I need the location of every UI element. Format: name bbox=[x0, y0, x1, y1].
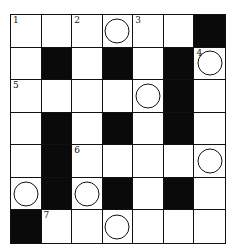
crossword-cell[interactable] bbox=[194, 113, 225, 146]
crossword-cell[interactable]: 7 bbox=[42, 210, 73, 243]
crossword-cell[interactable] bbox=[103, 145, 134, 178]
circle-marker-icon bbox=[13, 181, 38, 206]
black-cell bbox=[42, 145, 73, 178]
crossword-cell[interactable] bbox=[72, 48, 103, 81]
crossword-cell[interactable] bbox=[194, 178, 225, 211]
clue-number: 3 bbox=[135, 15, 141, 26]
crossword-cell[interactable] bbox=[103, 210, 134, 243]
circle-marker-icon bbox=[197, 149, 222, 174]
crossword-cell[interactable] bbox=[194, 80, 225, 113]
crossword-cell[interactable] bbox=[164, 15, 195, 48]
circle-marker-icon bbox=[136, 83, 161, 108]
clue-number: 7 bbox=[44, 210, 50, 221]
circle-marker-icon bbox=[197, 51, 222, 76]
black-cell bbox=[42, 113, 73, 146]
clue-number: 2 bbox=[74, 15, 80, 26]
crossword-cell[interactable] bbox=[72, 210, 103, 243]
crossword-cell[interactable] bbox=[164, 145, 195, 178]
black-cell bbox=[103, 48, 134, 81]
black-cell bbox=[42, 48, 73, 81]
black-cell bbox=[42, 178, 73, 211]
crossword-cell[interactable] bbox=[133, 80, 164, 113]
crossword-cell[interactable]: 3 bbox=[133, 15, 164, 48]
crossword-cell[interactable] bbox=[103, 15, 134, 48]
crossword-cell[interactable] bbox=[42, 15, 73, 48]
crossword-cell[interactable] bbox=[133, 145, 164, 178]
crossword-cell[interactable] bbox=[72, 80, 103, 113]
black-cell bbox=[103, 113, 134, 146]
black-cell bbox=[11, 210, 42, 243]
crossword-cell[interactable] bbox=[72, 113, 103, 146]
crossword-cell[interactable]: 6 bbox=[72, 145, 103, 178]
crossword-cell[interactable] bbox=[133, 48, 164, 81]
crossword-cell[interactable] bbox=[164, 210, 195, 243]
clue-number: 6 bbox=[74, 145, 80, 156]
clue-number: 5 bbox=[13, 80, 19, 91]
crossword-cell[interactable]: 2 bbox=[72, 15, 103, 48]
black-cell bbox=[164, 48, 195, 81]
crossword-cell[interactable] bbox=[11, 113, 42, 146]
crossword-cell[interactable]: 5 bbox=[11, 80, 42, 113]
circle-marker-icon bbox=[74, 181, 99, 206]
crossword-cell[interactable] bbox=[133, 210, 164, 243]
crossword-cell[interactable] bbox=[11, 145, 42, 178]
crossword-cell[interactable]: 4 bbox=[194, 48, 225, 81]
crossword-cell[interactable] bbox=[42, 80, 73, 113]
crossword-cell[interactable]: 1 bbox=[11, 15, 42, 48]
crossword-cell[interactable] bbox=[133, 113, 164, 146]
crossword-cell[interactable] bbox=[194, 145, 225, 178]
circle-marker-icon bbox=[105, 18, 130, 43]
clue-number: 1 bbox=[13, 15, 19, 26]
crossword-cell[interactable] bbox=[72, 178, 103, 211]
black-cell bbox=[164, 113, 195, 146]
crossword-cell[interactable] bbox=[133, 178, 164, 211]
crossword-cell[interactable] bbox=[11, 178, 42, 211]
crossword-cell[interactable] bbox=[103, 80, 134, 113]
black-cell bbox=[164, 80, 195, 113]
black-cell bbox=[194, 15, 225, 48]
crossword-grid: 1234567 bbox=[10, 14, 226, 244]
black-cell bbox=[164, 178, 195, 211]
crossword-cell[interactable] bbox=[11, 48, 42, 81]
circle-marker-icon bbox=[105, 214, 130, 239]
crossword-cell[interactable] bbox=[194, 210, 225, 243]
black-cell bbox=[103, 178, 134, 211]
